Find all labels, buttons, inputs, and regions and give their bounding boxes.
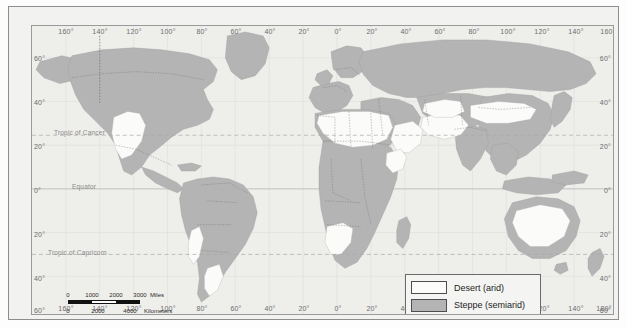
lon-top-label-120w: 120° (126, 28, 141, 35)
lon-top-label-140w: 140° (92, 28, 107, 35)
lat-right-label-20n: 20° (600, 143, 611, 150)
world-map-svg (32, 26, 613, 314)
scale-km-ticks: 0 2000 4000 Kilometers (68, 308, 180, 315)
lon-top-label-100e: 100° (500, 28, 515, 35)
lon-top-label-0: 0° (334, 28, 341, 35)
legend-swatch-desert (411, 281, 447, 294)
lon-top-label-80w: 80° (196, 28, 207, 35)
lat-right-label-20s: 20° (600, 231, 611, 238)
lon-top-label-40w: 40° (264, 28, 275, 35)
lat-left-label-20n: 20° (34, 143, 45, 150)
lon-bottom-label-140e: 140° (568, 305, 583, 312)
lat-left-label-60n: 60° (34, 55, 45, 62)
tropic-of-capricorn-label: Tropic of Capricorn (48, 249, 107, 256)
lon-top-label-20w: 20° (298, 28, 309, 35)
legend-swatch-steppe (411, 299, 447, 312)
scale-miles-tick-3000: 3000 (133, 292, 146, 298)
lat-right-label-40s: 40° (600, 275, 611, 282)
scale-miles-tick-1000: 1000 (85, 292, 98, 298)
lat-right-label-40n: 40° (600, 99, 611, 106)
scale-km-tick-0: 0 (66, 308, 69, 314)
legend-label-steppe: Steppe (semiarid) (454, 300, 525, 310)
figure-page: 160° 140° 120° 100° 80° 60° 40° 20° 0° 2… (0, 0, 627, 328)
lat-left-label-20s: 20° (34, 231, 45, 238)
lon-top-label-160w: 160° (58, 28, 73, 35)
lon-bottom-label-40w: 40° (264, 305, 275, 312)
lat-left-label-40s: 40° (34, 275, 45, 282)
scale-bar-kilometers: 0 2000 4000 Kilometers (68, 308, 180, 315)
scale-miles-tick-2000: 2000 (109, 292, 122, 298)
lon-top-label-60e: 60° (434, 28, 445, 35)
figure-frame: 160° 140° 120° 100° 80° 60° 40° 20° 0° 2… (8, 6, 619, 320)
lat-left-label-60s: 60° (34, 307, 45, 314)
lon-top-label-20e: 20° (366, 28, 377, 35)
lon-bottom-label-20w: 20° (298, 305, 309, 312)
legend-item-steppe[interactable]: Steppe (semiarid) (411, 299, 535, 312)
scale-miles-tick-0: 0 (66, 292, 69, 298)
scale-km-unit: Kilometers (144, 308, 172, 314)
equator-label: Equator (72, 183, 96, 190)
lon-top-label-160e: 160° (600, 28, 614, 35)
lat-left-label-40n: 40° (34, 99, 45, 106)
lon-bottom-label-60w: 60° (230, 305, 241, 312)
scale-miles-ticks: 0 1000 2000 3000 Miles (68, 292, 180, 300)
map-neatline: 160° 140° 120° 100° 80° 60° 40° 20° 0° 2… (31, 25, 614, 315)
lon-top-label-40e: 40° (400, 28, 411, 35)
tropic-of-cancer-label: Tropic of Cancer (54, 129, 105, 136)
legend-label-desert: Desert (arid) (454, 283, 504, 293)
map-legend: Desert (arid) Steppe (semiarid) (405, 274, 541, 315)
lon-top-label-100w: 100° (160, 28, 175, 35)
lon-bottom-label-0: 0° (334, 305, 341, 312)
lon-top-label-140e: 140° (568, 28, 583, 35)
scale-miles-bar (68, 300, 140, 304)
lon-top-label-60w: 60° (230, 28, 241, 35)
lat-left-label-0: 0° (34, 187, 41, 194)
lon-bottom-label-80w: 80° (196, 305, 207, 312)
scale-km-tick-4000: 4000 (123, 308, 136, 314)
scale-bar-miles: 0 1000 2000 3000 Miles (68, 292, 180, 304)
lat-right-label-60n: 60° (600, 55, 611, 62)
lon-bottom-label-20e: 20° (366, 305, 377, 312)
legend-item-desert[interactable]: Desert (arid) (411, 281, 535, 294)
lat-right-label-60s: 60° (600, 307, 611, 314)
lat-right-label-0: 0° (604, 187, 611, 194)
desert-gobi-taklamakan (470, 101, 536, 123)
scale-bars: 0 1000 2000 3000 Miles 0 2 (68, 292, 180, 315)
scale-miles-unit: Miles (150, 292, 164, 298)
lon-top-label-120e: 120° (534, 28, 549, 35)
lon-top-label-80e: 80° (468, 28, 479, 35)
scale-km-tick-2000: 2000 (91, 308, 104, 314)
world-map-graphic (32, 26, 613, 314)
